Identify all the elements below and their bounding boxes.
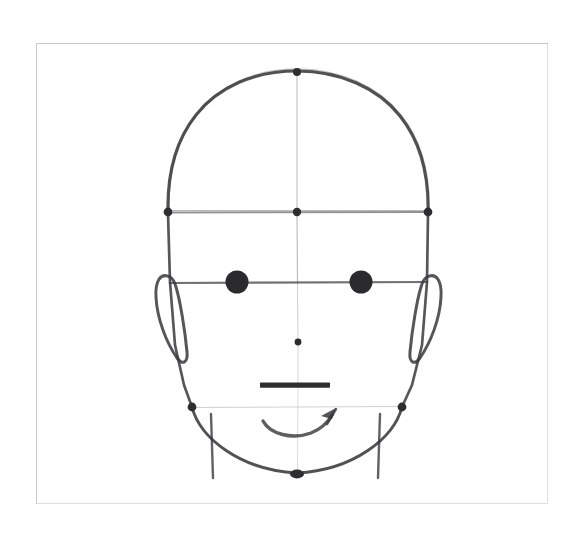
vertical-center-axis xyxy=(297,72,298,474)
screenshot-root: · · · · · · · xyxy=(0,0,586,538)
node-jaw-right xyxy=(398,403,407,412)
left-eye-dot xyxy=(226,271,249,294)
eye-horizontal-line xyxy=(170,282,427,283)
node-brow-right xyxy=(424,208,433,217)
rotation-arrow xyxy=(263,408,336,436)
left-neck-line xyxy=(211,414,213,478)
node-chin xyxy=(290,470,304,479)
head-construction-drawing xyxy=(0,0,586,538)
jaw-horizontal-line xyxy=(192,407,402,408)
right-eye-dot xyxy=(350,271,373,294)
cranium-arc xyxy=(168,69,429,213)
mouth-bar xyxy=(260,383,330,388)
node-brow-center xyxy=(293,208,301,216)
jaw-contour xyxy=(192,407,402,473)
right-neck-line xyxy=(378,414,380,478)
node-top-of-skull xyxy=(293,68,301,76)
node-brow-left xyxy=(164,208,173,217)
node-jaw-left xyxy=(188,403,197,412)
nose-dot xyxy=(295,339,302,346)
